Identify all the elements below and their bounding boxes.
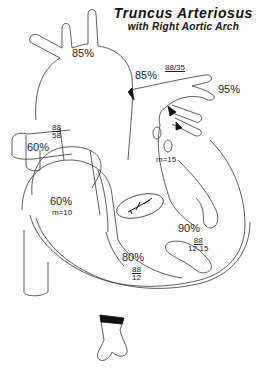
aortic-arch xyxy=(30,10,132,121)
right-ventricle xyxy=(22,160,182,278)
pulmonary-veins xyxy=(159,105,201,136)
label-rv-saturation: 80% xyxy=(122,252,144,263)
ductal-marker xyxy=(100,315,124,324)
label-svc-saturation: 60% xyxy=(27,142,49,153)
heart-diagram xyxy=(0,0,263,373)
label-truncus-pressure: 88 58 xyxy=(52,124,61,140)
label-pa-pressure: 88/35 xyxy=(165,64,185,72)
left-atrium xyxy=(158,125,195,226)
label-aorta-saturation: 85% xyxy=(72,48,94,59)
label-pa-saturation: 85% xyxy=(135,70,157,81)
label-lv-pressure: 88 12-15 xyxy=(188,237,208,253)
valve-marker xyxy=(128,88,134,100)
inferior-vena-cava xyxy=(24,230,48,296)
label-lv-saturation: 90% xyxy=(178,223,200,234)
label-pulm-vein-saturation: 95% xyxy=(218,84,240,95)
label-la-mean-pressure: m=15 xyxy=(156,156,176,164)
label-ra-saturation: 60% xyxy=(50,196,72,207)
label-ra-mean-pressure: m=10 xyxy=(52,209,72,217)
label-rv-pressure: 88 12 xyxy=(132,266,141,282)
